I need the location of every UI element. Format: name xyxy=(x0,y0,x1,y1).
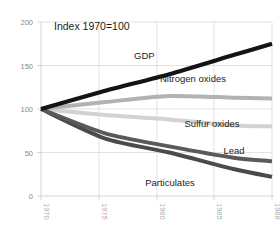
x-tick-1970: 1970 xyxy=(42,203,51,220)
series-label-lead: Lead xyxy=(223,145,244,156)
series-label-sulfur-oxides: Sulfur oxides xyxy=(185,118,240,129)
y-tick-100: 100 xyxy=(20,105,33,114)
x-tick-1980: 1980 xyxy=(158,203,167,220)
x-tick-1975: 1975 xyxy=(100,203,109,220)
series-label-particulates: Particulates xyxy=(145,177,195,188)
chart-title: Index 1970=100 xyxy=(54,20,130,32)
x-tick-1985: 1985 xyxy=(215,203,224,220)
y-tick-50: 50 xyxy=(25,149,33,158)
y-tick-150: 150 xyxy=(20,62,33,71)
series-label-nitrogen-oxides: Nitrogen oxides xyxy=(160,73,226,84)
y-tick-0: 0 xyxy=(29,192,33,201)
x-tick-1988: 1988 xyxy=(273,203,280,220)
y-tick-200: 200 xyxy=(20,18,33,27)
series-label-gdp: GDP xyxy=(134,50,155,61)
gridlines-horizontal xyxy=(41,22,272,153)
x-tick-marks xyxy=(41,196,272,200)
x-tick-labels: 1970 1975 1980 1985 1988 xyxy=(42,203,280,220)
line-chart: 200 150 100 50 0 1970 1975 1980 1985 198… xyxy=(0,0,280,225)
series-layer xyxy=(41,44,272,177)
chart-container: 200 150 100 50 0 1970 1975 1980 1985 198… xyxy=(0,0,280,225)
y-tick-labels: 200 150 100 50 0 xyxy=(20,18,33,201)
y-tick-marks xyxy=(37,22,41,196)
